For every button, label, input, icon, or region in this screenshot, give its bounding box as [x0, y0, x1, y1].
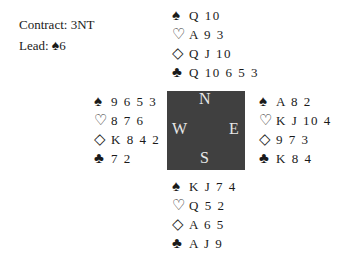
diamond-icon: ◇: [94, 130, 111, 149]
north-spades: ♠Q 10: [172, 6, 259, 25]
north-diamonds: ◇Q J 10: [172, 44, 259, 63]
spade-icon: ♠: [94, 92, 111, 111]
north-clubs-cards: Q 10 6 5 3: [189, 65, 259, 80]
south-diamonds-cards: A 6 5: [189, 217, 225, 232]
east-hearts-cards: K J 10 4: [276, 113, 332, 128]
north-diamonds-cards: Q J 10: [189, 46, 232, 61]
west-clubs-cards: 7 2: [111, 151, 132, 166]
east-clubs-cards: K 8 4: [276, 151, 312, 166]
compass-north: N: [199, 90, 211, 108]
lead-info: Lead: ♠6: [19, 38, 66, 54]
club-icon: ♣: [94, 149, 111, 168]
compass-box: N W E S: [167, 91, 245, 170]
west-hearts: ♡8 7 6: [94, 111, 160, 130]
west-hearts-cards: 8 7 6: [111, 113, 145, 128]
east-diamonds: ◇9 7 3: [259, 130, 332, 149]
north-hearts-cards: A 9 3: [189, 27, 225, 42]
east-hand: ♠A 8 2 ♡K J 10 4 ◇9 7 3 ♣K 8 4: [259, 92, 332, 168]
north-spades-cards: Q 10: [189, 8, 221, 23]
compass-west: W: [172, 120, 187, 138]
north-clubs: ♣Q 10 6 5 3: [172, 63, 259, 82]
heart-icon: ♡: [172, 196, 189, 215]
club-icon: ♣: [172, 234, 189, 253]
north-hearts: ♡A 9 3: [172, 25, 259, 44]
compass-east: E: [229, 120, 239, 138]
west-diamonds: ◇K 8 4 2: [94, 130, 160, 149]
heart-icon: ♡: [259, 111, 276, 130]
south-spades-cards: K J 7 4: [189, 179, 237, 194]
west-diamonds-cards: K 8 4 2: [111, 132, 160, 147]
west-spades: ♠9 6 5 3: [94, 92, 160, 111]
lead-card: 6: [59, 38, 66, 53]
diamond-icon: ◇: [172, 215, 189, 234]
compass-south: S: [200, 149, 209, 167]
east-spades-cards: A 8 2: [276, 94, 312, 109]
south-diamonds: ◇A 6 5: [172, 215, 237, 234]
diamond-icon: ◇: [172, 44, 189, 63]
east-clubs: ♣K 8 4: [259, 149, 332, 168]
west-hand: ♠9 6 5 3 ♡8 7 6 ◇K 8 4 2 ♣7 2: [94, 92, 160, 168]
heart-icon: ♡: [172, 25, 189, 44]
south-hearts: ♡Q 5 2: [172, 196, 237, 215]
spade-icon: ♠: [172, 6, 189, 25]
contract-info: Contract: 3NT: [19, 17, 94, 33]
diamond-icon: ◇: [259, 130, 276, 149]
club-icon: ♣: [259, 149, 276, 168]
south-clubs: ♣A J 9: [172, 234, 237, 253]
heart-icon: ♡: [94, 111, 111, 130]
spade-icon: ♠: [172, 177, 189, 196]
west-spades-cards: 9 6 5 3: [111, 94, 157, 109]
lead-prefix: Lead:: [19, 38, 52, 53]
south-clubs-cards: A J 9: [189, 236, 223, 251]
north-hand: ♠Q 10 ♡A 9 3 ◇Q J 10 ♣Q 10 6 5 3: [172, 6, 259, 82]
club-icon: ♣: [172, 63, 189, 82]
south-hand: ♠K J 7 4 ♡Q 5 2 ◇A 6 5 ♣A J 9: [172, 177, 237, 253]
east-hearts: ♡K J 10 4: [259, 111, 332, 130]
west-clubs: ♣7 2: [94, 149, 160, 168]
east-spades: ♠A 8 2: [259, 92, 332, 111]
east-diamonds-cards: 9 7 3: [276, 132, 310, 147]
contract-label: Contract: 3NT: [19, 17, 94, 33]
spade-icon: ♠: [259, 92, 276, 111]
south-hearts-cards: Q 5 2: [189, 198, 225, 213]
south-spades: ♠K J 7 4: [172, 177, 237, 196]
